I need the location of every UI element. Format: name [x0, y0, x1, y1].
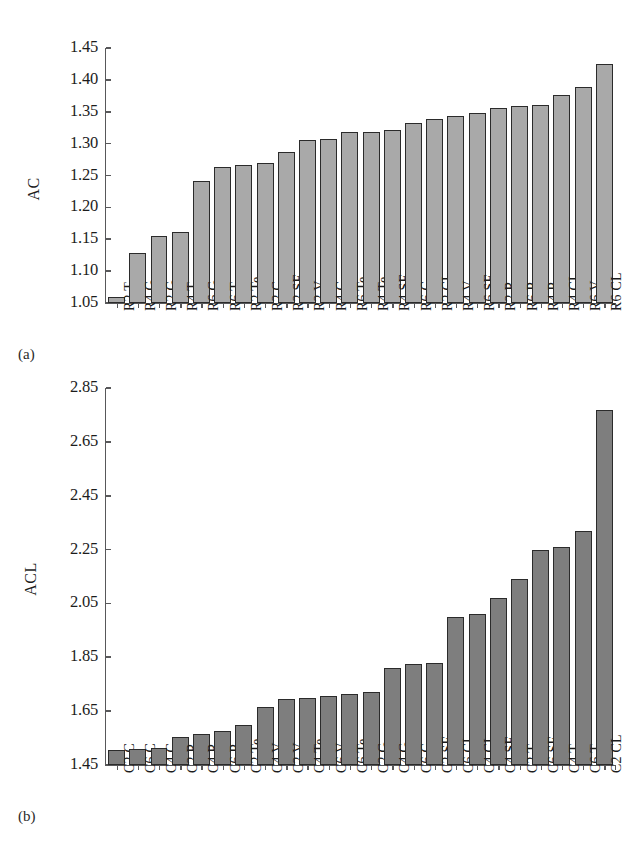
panel-b-y-tick-label: 1.85 — [70, 646, 98, 666]
bar — [532, 105, 549, 303]
bar — [511, 106, 528, 303]
panel-a-y-tick-mark — [106, 111, 111, 113]
figure-root: (a) AC 1.051.101.151.201.251.301.351.401… — [0, 0, 631, 866]
panel-a-x-tick-mark — [520, 303, 521, 308]
panel-a-x-tick-mark — [244, 303, 245, 308]
panel-b-y-tick-label: 2.25 — [70, 539, 98, 559]
panel-b-x-tick-mark — [414, 765, 415, 770]
bar — [596, 410, 613, 765]
panel-b-x-tick-mark — [498, 765, 499, 770]
panel-b-x-tick-mark — [583, 765, 584, 770]
panel-a-y-tick-mark — [106, 79, 111, 81]
panel-b-y-tick-mark — [106, 656, 111, 658]
bar — [553, 547, 570, 765]
panel-a-y-tick-mark — [106, 207, 111, 209]
panel-b-x-tick-mark — [392, 765, 393, 770]
panel-b: (b) ACL 1.451.651.852.052.252.452.652.85… — [0, 380, 631, 866]
panel-a-x-tick-mark — [435, 303, 436, 308]
bar — [447, 116, 464, 303]
panel-a-x-tick-mark — [414, 303, 415, 308]
panel-b-x-tick-mark — [159, 765, 160, 770]
panel-b-x-tick-mark — [435, 765, 436, 770]
panel-a-x-tick-mark — [615, 303, 616, 308]
panel-a-x-tick-mark — [180, 303, 181, 308]
panel-b-y-tick-mark — [106, 387, 111, 389]
panel-b-y-tick-mark — [106, 495, 111, 497]
panel-a-y-tick-mark — [106, 175, 111, 177]
panel-a-x-tick-mark — [371, 303, 372, 308]
bar — [532, 550, 549, 765]
panel-a-y-tick-label: 1.15 — [70, 228, 98, 248]
panel-b-x-tick-mark — [329, 765, 330, 770]
panel-a-y-tick-label: 1.10 — [70, 260, 98, 280]
panel-a-y-tick-label: 1.25 — [70, 165, 98, 185]
panel-a-x-tick-mark — [477, 303, 478, 308]
panel-b-y-tick-label: 1.45 — [70, 754, 98, 774]
panel-a-y-tick-mark — [106, 270, 111, 272]
panel-a-x-tick-mark — [138, 303, 139, 308]
panel-b-y-tick-label: 1.65 — [70, 700, 98, 720]
bar — [299, 140, 316, 303]
panel-a-x-tick-mark — [307, 303, 308, 308]
panel-b-x-tick-mark — [307, 765, 308, 770]
panel-a-y-tick-label: 1.20 — [70, 196, 98, 216]
panel-a-x-tick-label: R6 CL — [609, 272, 625, 311]
panel-a: (a) AC 1.051.101.151.201.251.301.351.401… — [0, 0, 631, 380]
panel-a-x-tick-mark — [117, 303, 118, 308]
panel-a-plot-area: 1.051.101.151.201.251.301.351.401.45R2 T… — [105, 48, 615, 304]
panel-a-x-tick-mark — [583, 303, 584, 308]
panel-b-x-tick-label: C2 CL — [609, 734, 625, 773]
panel-b-x-tick-mark — [117, 765, 118, 770]
panel-b-label: (b) — [18, 808, 36, 825]
bar — [405, 123, 422, 303]
panel-b-plot-area: 1.451.651.852.052.252.452.652.85C2 CC6 C… — [105, 388, 615, 766]
panel-b-x-tick-mark — [615, 765, 616, 770]
panel-a-x-tick-mark — [498, 303, 499, 308]
panel-b-x-tick-mark — [520, 765, 521, 770]
panel-b-x-tick-mark — [180, 765, 181, 770]
panel-a-x-tick-mark — [541, 303, 542, 308]
panel-b-y-tick-label: 2.65 — [70, 431, 98, 451]
panel-b-x-tick-mark — [604, 765, 605, 770]
bar — [511, 579, 528, 765]
panel-b-x-tick-mark — [244, 765, 245, 770]
panel-a-x-tick-mark — [456, 303, 457, 308]
panel-a-y-axis-title: AC — [25, 177, 43, 200]
panel-a-x-tick-mark — [223, 303, 224, 308]
panel-b-x-tick-mark — [138, 765, 139, 770]
panel-a-x-tick-mark — [562, 303, 563, 308]
panel-a-y-tick-mark — [106, 238, 111, 240]
panel-b-y-tick-label: 2.45 — [70, 485, 98, 505]
panel-a-x-tick-mark — [286, 303, 287, 308]
bar — [575, 87, 592, 303]
panel-b-y-tick-mark — [106, 710, 111, 712]
panel-b-x-tick-mark — [562, 765, 563, 770]
bar — [320, 139, 337, 303]
panel-a-x-tick-mark — [604, 303, 605, 308]
panel-b-x-tick-mark — [541, 765, 542, 770]
panel-a-x-tick-mark — [159, 303, 160, 308]
panel-a-x-tick-mark — [265, 303, 266, 308]
bar — [575, 531, 592, 765]
panel-b-x-tick-mark — [371, 765, 372, 770]
panel-a-y-tick-label: 1.30 — [70, 133, 98, 153]
panel-b-y-tick-mark — [106, 603, 111, 605]
panel-a-x-tick-mark — [201, 303, 202, 308]
panel-b-x-tick-mark — [350, 765, 351, 770]
panel-b-x-tick-mark — [456, 765, 457, 770]
panel-a-y-tick-mark — [106, 47, 111, 49]
panel-b-y-tick-label: 2.85 — [70, 377, 98, 397]
panel-b-y-tick-mark — [106, 549, 111, 551]
bar — [596, 64, 613, 303]
panel-a-y-tick-label: 1.45 — [70, 37, 98, 57]
panel-b-x-tick-mark — [265, 765, 266, 770]
panel-a-y-tick-label: 1.35 — [70, 101, 98, 121]
panel-a-y-tick-mark — [106, 143, 111, 145]
panel-b-x-tick-mark — [286, 765, 287, 770]
panel-a-x-tick-mark — [329, 303, 330, 308]
panel-a-y-tick-label: 1.05 — [70, 292, 98, 312]
panel-b-x-tick-mark — [223, 765, 224, 770]
panel-b-x-tick-mark — [477, 765, 478, 770]
panel-b-y-tick-mark — [106, 441, 111, 443]
panel-a-label: (a) — [18, 346, 35, 363]
